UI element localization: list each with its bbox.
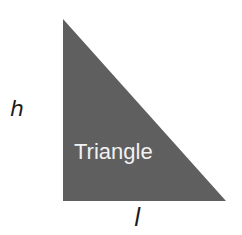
right-triangle <box>63 19 226 201</box>
shape-name-label: Triangle <box>74 139 153 165</box>
height-label: h <box>10 96 24 121</box>
triangle-diagram: h Triangle l <box>0 0 242 235</box>
triangle-shape <box>0 0 242 235</box>
base-length-label: l <box>134 204 141 232</box>
